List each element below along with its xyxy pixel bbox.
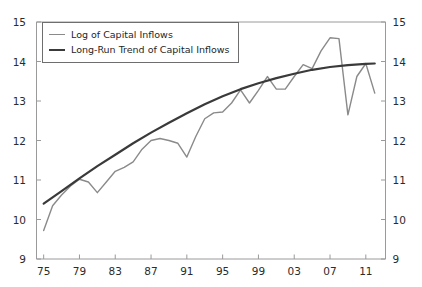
y-axis-tick-label-right: 12 [393, 136, 415, 147]
x-axis-tick-label: 99 [246, 266, 270, 277]
y-axis-tick-label-right: 10 [393, 215, 415, 226]
y-axis-tick-label-right: 15 [393, 17, 415, 28]
y-axis-tick-label-left: 14 [4, 57, 26, 68]
y-axis-tick-label-left: 15 [4, 17, 26, 28]
y-axis-tick-label-right: 11 [393, 175, 415, 186]
x-axis-tick-label: 75 [32, 266, 56, 277]
y-axis-tick-label-right: 9 [393, 254, 415, 265]
x-axis-tick-label: 11 [354, 266, 378, 277]
y-axis-tick-label-left: 12 [4, 136, 26, 147]
y-axis-tick-label-left: 11 [4, 175, 26, 186]
x-axis-tick-label: 95 [211, 266, 235, 277]
legend-item-long-run-trend: Long-Run Trend of Capital Inflows [49, 42, 230, 57]
y-axis-tick-label-right: 13 [393, 96, 415, 107]
x-axis-tick-label: 91 [175, 266, 199, 277]
x-axis-tick-label: 07 [318, 266, 342, 277]
y-axis-tick-label-left: 13 [4, 96, 26, 107]
x-axis-tick-label: 03 [282, 266, 306, 277]
y-axis-tick-label-left: 9 [4, 254, 26, 265]
y-axis-tick-label-right: 14 [393, 57, 415, 68]
series-group [44, 38, 375, 231]
legend-swatch-line-icon [49, 34, 65, 35]
legend-label: Long-Run Trend of Capital Inflows [71, 45, 230, 55]
capital-inflows-chart: Log of Capital Inflows Long-Run Trend of… [0, 0, 422, 287]
chart-legend: Log of Capital Inflows Long-Run Trend of… [42, 22, 239, 63]
legend-label: Log of Capital Inflows [71, 30, 173, 40]
x-axis-tick-label: 87 [139, 266, 163, 277]
legend-swatch-line-icon [49, 49, 65, 51]
x-axis-tick-label: 79 [67, 266, 91, 277]
x-axis-tick-label: 83 [103, 266, 127, 277]
y-axis-tick-label-left: 10 [4, 215, 26, 226]
legend-item-log-of-capital-inflows: Log of Capital Inflows [49, 27, 230, 42]
